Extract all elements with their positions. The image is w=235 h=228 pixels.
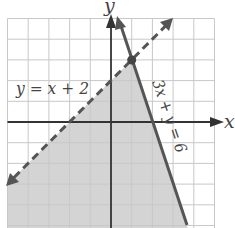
x-axis-label: x	[224, 110, 235, 132]
line-1-label: y = x + 2	[15, 78, 89, 98]
y-axis-arrow-icon	[106, 14, 116, 28]
x-axis-arrow-icon	[210, 117, 224, 127]
inequality-graph: y x y = x + 2 3x + y = 6	[0, 0, 235, 228]
y-axis-label: y	[103, 0, 115, 16]
intersection-point	[127, 56, 136, 65]
